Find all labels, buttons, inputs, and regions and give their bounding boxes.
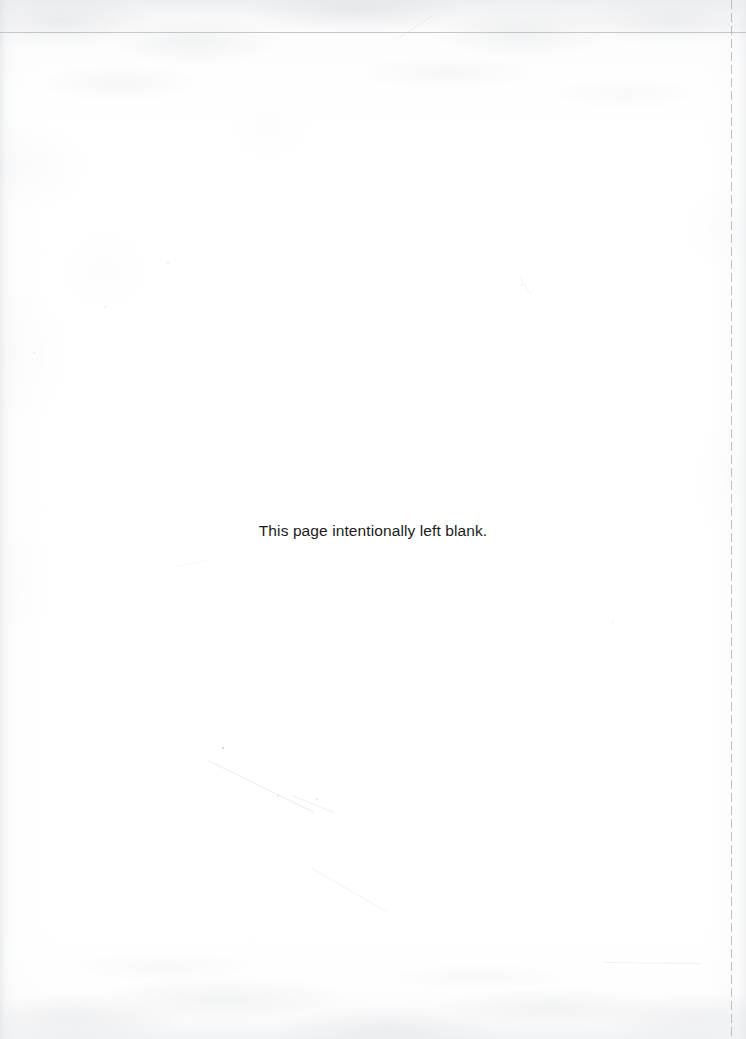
crop-mark-horizontal-line bbox=[0, 32, 746, 33]
blank-page-notice: This page intentionally left blank. bbox=[0, 521, 746, 541]
scan-speck bbox=[277, 795, 279, 797]
scan-scratch bbox=[178, 560, 208, 567]
scan-scratch bbox=[519, 276, 532, 295]
scan-speck bbox=[33, 352, 35, 354]
scan-scratch bbox=[208, 760, 314, 813]
scan-speck bbox=[612, 621, 614, 623]
scanned-page: This page intentionally left blank. bbox=[0, 0, 746, 1039]
scan-scratch bbox=[604, 962, 700, 964]
paper-texture-top bbox=[0, 0, 746, 1039]
scan-speck bbox=[104, 306, 106, 308]
paper-texture-edges bbox=[0, 0, 746, 1039]
crop-mark-vertical-line bbox=[731, 0, 732, 1039]
paper-texture-bottom bbox=[0, 0, 746, 1039]
scan-speck bbox=[167, 262, 169, 264]
scan-speck bbox=[222, 747, 224, 749]
scan-scratch bbox=[398, 15, 433, 39]
scan-speck bbox=[521, 284, 523, 286]
scan-scratch bbox=[312, 868, 387, 912]
scan-scratch bbox=[292, 795, 335, 813]
scan-speck bbox=[316, 798, 318, 800]
